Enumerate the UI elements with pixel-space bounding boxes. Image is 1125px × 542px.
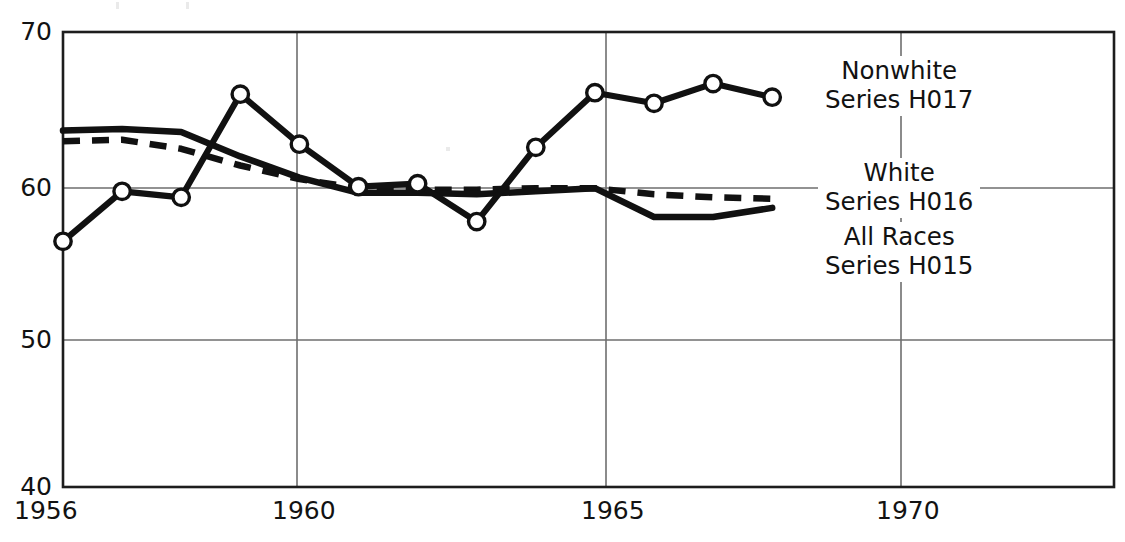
legend-label-nonwhite-name: Nonwhite <box>825 57 973 86</box>
data-point-1962 <box>409 176 425 192</box>
data-point-1959 <box>232 86 248 102</box>
legend-entry-allraces: All Races Series H015 <box>818 222 980 282</box>
x-axis-tick-1965: 1965 <box>581 498 645 523</box>
data-point-1966 <box>646 95 662 111</box>
data-point-1958 <box>173 189 189 205</box>
legend-entry-white: White Series H016 <box>818 158 980 218</box>
data-point-1961 <box>350 179 366 195</box>
data-point-1967 <box>705 75 721 91</box>
x-axis-tick-1970: 1970 <box>876 498 940 523</box>
series-nonwhite-markers <box>55 75 781 249</box>
y-axis-tick-70: 70 <box>0 19 52 44</box>
legend-label-white-name: White <box>825 159 973 188</box>
x-axis-tick-1956: 1956 <box>14 498 78 523</box>
legend-label-allraces-name: All Races <box>825 223 973 252</box>
data-point-1960 <box>291 136 307 152</box>
chart-figure: 70 60 50 40 1956 1960 1965 1970 Nonwhite… <box>0 0 1125 542</box>
legend-label-white-series: Series H016 <box>825 188 973 217</box>
y-axis-tick-50: 50 <box>0 327 52 352</box>
x-axis-tick-1960: 1960 <box>272 498 336 523</box>
data-point-1956 <box>55 233 71 249</box>
data-point-1963 <box>469 213 485 229</box>
data-point-1957 <box>114 183 130 199</box>
legend-label-nonwhite-series: Series H017 <box>825 86 973 115</box>
y-axis-tick-60: 60 <box>0 175 52 200</box>
data-point-1968 <box>764 89 780 105</box>
data-point-1965 <box>587 85 603 101</box>
data-point-1964 <box>528 139 544 155</box>
legend-label-allraces-series: Series H015 <box>825 252 973 281</box>
legend-entry-nonwhite: Nonwhite Series H017 <box>818 56 980 116</box>
series-allraces-line <box>63 129 772 217</box>
